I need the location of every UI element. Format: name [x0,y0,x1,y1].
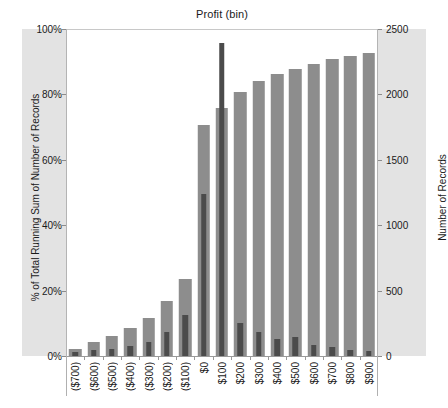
bar-group[interactable] [84,30,102,357]
x-axis-tick-label: $500 [290,362,301,384]
x-axis-tick-label: $200 [235,362,246,384]
right-axis-tick-label: 0 [386,351,392,362]
bar-group[interactable] [66,30,84,357]
x-axis-tick-mark [231,356,232,360]
x-axis-tick-label: $900 [364,362,375,384]
bar-record-count[interactable] [256,332,262,358]
bar-group[interactable] [139,30,157,357]
bar-cumulative-percent[interactable] [252,81,264,357]
plot-left-border [66,29,67,356]
right-axis-tick-label: 1500 [386,154,408,165]
bar-group[interactable] [341,30,359,357]
right-axis-tick-mark [378,356,382,357]
bar-record-count[interactable] [146,342,152,357]
right-axis-tick-label: 2500 [386,24,408,35]
bar-cumulative-percent[interactable] [363,53,375,357]
x-axis-tick-mark [323,356,324,360]
plot-area [66,29,378,357]
x-axis-tick-mark [305,356,306,360]
x-axis-tick-mark [360,356,361,360]
x-axis-tick-label: $300 [254,362,265,384]
right-axis-tick-mark [378,225,382,226]
x-axis-tick-label: ($400) [125,362,136,391]
bar-group[interactable] [286,30,304,357]
x-axis-tick-label: ($100) [180,362,191,391]
bar-cumulative-percent[interactable] [308,64,320,357]
x-axis-tick-mark [121,356,122,360]
bar-cumulative-percent[interactable] [326,59,338,357]
bar-group[interactable] [103,30,121,357]
bar-record-count[interactable] [293,337,299,357]
left-axis-tick-label: 0% [48,351,62,362]
bar-record-count[interactable] [274,339,280,357]
x-axis-tick-mark [176,356,177,360]
x-axis-tick-label: ($700) [70,362,81,391]
bar-group[interactable] [323,30,341,357]
right-axis-tick-mark [378,160,382,161]
x-axis-tick-label: ($300) [144,362,155,391]
x-axis-tick-label: $0 [199,362,210,373]
bar-group[interactable] [250,30,268,357]
x-axis-tick-label: $800 [345,362,356,384]
x-axis-right-cap [377,356,378,396]
bar-record-count[interactable] [238,323,244,357]
right-axis-tick-label: 2000 [386,89,408,100]
left-axis-tick-mark [62,225,66,226]
x-axis-tick-mark [250,356,251,360]
x-axis-tick-mark [286,356,287,360]
left-axis-tick-label: 40% [42,220,62,231]
bar-group[interactable] [305,30,323,357]
bar-record-count[interactable] [219,43,225,357]
x-axis-tick-label: $100 [217,362,228,384]
bar-cumulative-percent[interactable] [271,74,283,357]
right-axis-tick-mark [378,94,382,95]
x-axis-tick-mark [84,356,85,360]
bar-record-count[interactable] [201,194,207,358]
x-axis-tick-label: ($500) [107,362,118,391]
left-axis-tick-mark [62,291,66,292]
right-axis-tick-mark [378,29,382,30]
bar-group[interactable] [360,30,378,357]
right-axis-tick-label: 500 [386,285,403,296]
bar-group[interactable] [194,30,212,357]
left-axis-title: % of Total Running Sum of Number of Reco… [30,78,41,318]
bar-group[interactable] [176,30,194,357]
x-axis-tick-mark [103,356,104,360]
x-axis-tick-mark [139,356,140,360]
chart-title: Profit (bin) [0,8,444,20]
bar-cumulative-percent[interactable] [344,56,356,357]
x-axis-tick-mark [194,356,195,360]
x-axis-tick-label: ($600) [89,362,100,391]
bar-group[interactable] [121,30,139,357]
right-axis-title: Number of Records [437,78,448,318]
bar-group[interactable] [213,30,231,357]
bar-cumulative-percent[interactable] [289,69,301,357]
bar-group[interactable] [268,30,286,357]
left-axis-tick-label: 20% [42,285,62,296]
left-axis-tick-label: 100% [36,24,62,35]
x-axis-tick-mark [158,356,159,360]
bar-group[interactable] [158,30,176,357]
left-axis-tick-mark [62,356,66,357]
right-axis-tick-label: 1000 [386,220,408,231]
x-axis-tick-label: $600 [309,362,320,384]
x-axis-left-cap [66,356,67,396]
bar-record-count[interactable] [183,315,189,357]
left-axis-tick-label: 80% [42,89,62,100]
right-axis-tick-mark [378,291,382,292]
bar-cumulative-percent[interactable] [234,92,246,357]
x-axis-tick-mark [341,356,342,360]
left-axis-tick-mark [62,160,66,161]
right-axis-background [378,29,426,356]
bar-group[interactable] [231,30,249,357]
x-axis-line [66,356,378,357]
x-axis-tick-label: $700 [327,362,338,384]
x-axis-tick-mark [268,356,269,360]
x-axis-tick-label: $400 [272,362,283,384]
bar-record-count[interactable] [164,332,170,357]
left-axis-tick-mark [62,29,66,30]
x-axis-tick-label: ($200) [162,362,173,391]
plot-right-border [377,29,378,356]
left-axis-tick-label: 60% [42,154,62,165]
